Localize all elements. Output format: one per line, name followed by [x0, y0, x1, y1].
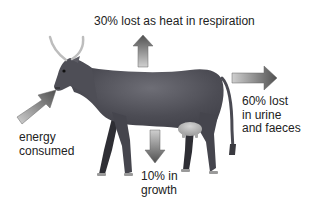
cow-head	[54, 58, 98, 104]
tail	[222, 78, 233, 150]
horn-right	[72, 37, 83, 59]
udder	[178, 122, 202, 136]
tail-tuft	[229, 144, 236, 155]
hind-leg	[198, 112, 218, 172]
horn-left	[50, 37, 66, 60]
waste-arrow-icon	[232, 66, 277, 90]
eye	[62, 69, 65, 72]
energy-flow-diagram: 30% lost as heat in respiration 60% lost…	[0, 0, 316, 214]
heat-loss-label: 30% lost as heat in respiration	[94, 15, 255, 29]
growth-label: 10% in growth	[141, 170, 178, 197]
energy-arrow-icon	[17, 90, 56, 124]
growth-arrow-icon	[145, 130, 165, 163]
energy-consumed-label: energy consumed	[19, 131, 74, 158]
heat-arrow-icon	[133, 35, 153, 67]
waste-loss-label: 60% lost in urine and faeces	[242, 95, 301, 136]
